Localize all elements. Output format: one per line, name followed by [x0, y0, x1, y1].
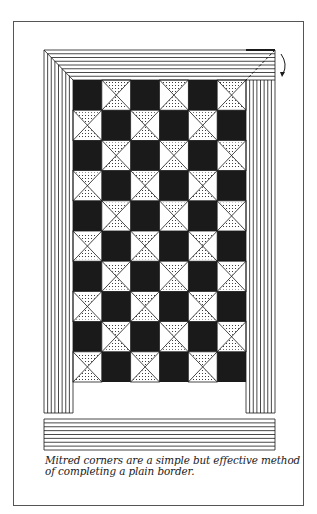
quilt-block — [188, 80, 217, 110]
quilt-block — [102, 110, 131, 140]
quilt-block — [102, 80, 131, 110]
quilt-block — [102, 352, 131, 382]
arrow-head-icon — [280, 72, 285, 77]
quilt-block — [73, 322, 102, 352]
left-border-strip — [44, 50, 73, 413]
quilt-block — [188, 110, 217, 140]
quilt-block — [188, 201, 217, 231]
quilt-block — [73, 171, 102, 201]
quilt-block — [131, 352, 160, 382]
quilt-block — [102, 261, 131, 291]
quilt-block — [217, 201, 246, 231]
quilt-block — [73, 231, 102, 261]
quilt-block — [188, 322, 217, 352]
quilt-block — [131, 171, 160, 201]
quilt-block — [217, 291, 246, 321]
quilt-block — [217, 140, 246, 170]
quilt-block — [131, 291, 160, 321]
quilt-block — [188, 261, 217, 291]
quilt-block — [188, 231, 217, 261]
quilt-block — [102, 322, 131, 352]
curved-arrow-icon — [281, 54, 285, 74]
quilt-block — [188, 171, 217, 201]
quilt-block — [102, 291, 131, 321]
figure-caption: Mitred corners are a simple but effectiv… — [45, 455, 285, 477]
quilt-block — [102, 140, 131, 170]
bottom-border-strip — [44, 419, 275, 450]
quilt-block — [160, 261, 189, 291]
quilt-block — [160, 140, 189, 170]
quilt-block — [217, 80, 246, 110]
quilt-block — [160, 201, 189, 231]
quilt-block — [188, 352, 217, 382]
top-border-strip — [44, 50, 275, 80]
quilt-block — [73, 201, 102, 231]
caption-line-2: of completing a plain border. — [45, 466, 285, 477]
mitred-corner-illustration — [0, 0, 317, 514]
quilt-block — [160, 322, 189, 352]
quilt-block — [160, 291, 189, 321]
quilt-block — [131, 322, 160, 352]
quilt-block — [131, 231, 160, 261]
quilt-block — [217, 352, 246, 382]
quilt-block — [131, 261, 160, 291]
quilt-block — [73, 261, 102, 291]
quilt-block — [217, 261, 246, 291]
quilt-block — [102, 201, 131, 231]
quilt-block — [160, 80, 189, 110]
quilt-block — [131, 140, 160, 170]
quilt-block — [131, 80, 160, 110]
quilt-block — [73, 80, 102, 110]
quilt-block — [217, 110, 246, 140]
quilt-block — [160, 352, 189, 382]
quilt-block — [102, 171, 131, 201]
right-border-strip — [246, 80, 275, 413]
quilt-block — [188, 140, 217, 170]
quilt-block — [102, 231, 131, 261]
quilt-block — [217, 322, 246, 352]
quilt-block — [217, 231, 246, 261]
quilt-block — [188, 291, 217, 321]
quilt-block — [131, 201, 160, 231]
quilt-block — [73, 140, 102, 170]
quilt-block — [131, 110, 160, 140]
quilt-block — [217, 171, 246, 201]
quilt-block — [160, 110, 189, 140]
quilt-block — [73, 352, 102, 382]
quilt-block — [73, 291, 102, 321]
quilt-block — [73, 110, 102, 140]
quilt-block — [160, 171, 189, 201]
checkerboard-grid — [73, 80, 246, 382]
quilt-block — [160, 231, 189, 261]
